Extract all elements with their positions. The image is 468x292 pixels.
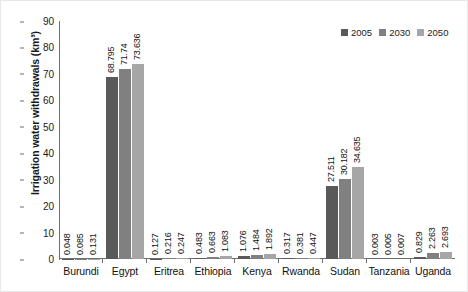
bar[interactable] — [295, 258, 307, 259]
bar-group: 27.51130.18234.635 — [323, 21, 367, 259]
legend-item-2030[interactable]: 2030 — [379, 27, 410, 38]
bar[interactable] — [251, 255, 263, 259]
bar-column[interactable]: 0.085 — [75, 21, 87, 259]
bar-column[interactable]: 1.076 — [238, 21, 250, 259]
bar-value-label: 0.085 — [75, 233, 85, 255]
y-axis-tick-label: 50 — [24, 121, 59, 132]
bar-column[interactable]: 0.663 — [207, 21, 219, 259]
bar-group: 0.0030.0050.007 — [367, 21, 411, 259]
y-axis-tick-mark — [20, 100, 24, 101]
bar[interactable] — [132, 64, 144, 259]
bar[interactable] — [163, 258, 175, 259]
bar-column[interactable]: 0.483 — [194, 21, 206, 259]
bar-column[interactable]: 30.182 — [339, 21, 351, 259]
bar-value-label: 0.483 — [194, 232, 204, 254]
x-axis-category-label-uganda: Uganda — [411, 265, 455, 277]
bar-group: 0.0480.0850.131 — [59, 21, 103, 259]
bar-column[interactable]: 1.083 — [220, 21, 232, 259]
y-axis-tick-mark — [20, 180, 24, 181]
bar[interactable] — [414, 257, 426, 259]
bar-column[interactable]: 0.003 — [370, 21, 382, 259]
bar-set: 0.1270.2160.247 — [147, 21, 191, 259]
bar[interactable] — [176, 258, 188, 259]
x-axis-category-label-sudan: Sudan — [323, 265, 367, 277]
category-separator-tick — [278, 259, 279, 263]
bar-column[interactable]: 34.635 — [352, 21, 364, 259]
bar-column[interactable]: 0.005 — [383, 21, 395, 259]
legend-item-2005[interactable]: 2005 — [341, 27, 372, 38]
y-axis-tick-label: 80 — [24, 42, 59, 53]
bar-column[interactable]: 0.007 — [396, 21, 408, 259]
bar-column[interactable]: 0.381 — [295, 21, 307, 259]
bar-column[interactable]: 0.131 — [88, 21, 100, 259]
bar[interactable] — [282, 258, 294, 259]
bar[interactable] — [220, 256, 232, 259]
legend-swatch-icon — [417, 29, 424, 36]
bar-value-label: 0.381 — [295, 232, 305, 254]
y-axis-tick-mark — [20, 74, 24, 75]
bar-value-label: 34.635 — [352, 137, 362, 163]
bar-column[interactable]: 0.317 — [282, 21, 294, 259]
bar-column[interactable]: 0.127 — [150, 21, 162, 259]
y-axis-tick-mark — [20, 21, 24, 22]
category-separator-tick — [102, 259, 103, 263]
y-axis-tick-label: 40 — [24, 148, 59, 159]
bar[interactable] — [308, 258, 320, 259]
bar-set: 0.8292.2632.693 — [411, 21, 455, 259]
bar-column[interactable]: 68.795 — [106, 21, 118, 259]
x-axis-category-labels: BurundiEgyptEritreaEthiopiaKenyaRwandaSu… — [59, 265, 455, 277]
legend-item-2050[interactable]: 2050 — [417, 27, 448, 38]
x-axis-category-label-burundi: Burundi — [59, 265, 103, 277]
bar-column[interactable]: 0.829 — [414, 21, 426, 259]
bar[interactable] — [326, 186, 338, 259]
bar[interactable] — [119, 69, 131, 259]
y-axis-title: Irrigation water withdrawals (km³) — [29, 0, 41, 233]
bar-column[interactable]: 1.892 — [264, 21, 276, 259]
bar-chart: Irrigation water withdrawals (km³) 01020… — [0, 0, 468, 292]
legend: 200520302050 — [341, 27, 448, 38]
y-axis-tick-label: 10 — [24, 227, 59, 238]
bar[interactable] — [339, 179, 351, 259]
bar-column[interactable]: 71.74 — [119, 21, 131, 259]
bar[interactable] — [352, 167, 364, 259]
y-axis-tick-label: 20 — [24, 201, 59, 212]
bar[interactable] — [427, 253, 439, 259]
bar-value-label: 0.048 — [62, 233, 72, 255]
bar-column[interactable]: 0.048 — [62, 21, 74, 259]
bar-column[interactable]: 2.693 — [440, 21, 452, 259]
bar-column[interactable]: 0.216 — [163, 21, 175, 259]
bar-value-label: 71.74 — [119, 44, 129, 66]
bar-column[interactable]: 2.263 — [427, 21, 439, 259]
bar[interactable] — [440, 252, 452, 259]
bar-value-label: 68.795 — [106, 47, 116, 73]
y-axis-tick-mark — [20, 47, 24, 48]
bar-column[interactable]: 0.447 — [308, 21, 320, 259]
plot-area: 0102030405060708090 0.0480.0850.13168.79… — [59, 21, 455, 259]
legend-label: 2005 — [351, 27, 372, 38]
bar-value-label: 30.182 — [339, 149, 349, 175]
bar[interactable] — [106, 77, 118, 259]
bar-value-label: 0.003 — [370, 233, 380, 255]
bar[interactable] — [194, 258, 206, 259]
bar-column[interactable]: 27.511 — [326, 21, 338, 259]
bar-value-label: 2.263 — [427, 227, 437, 249]
bar-set: 27.51130.18234.635 — [323, 21, 367, 259]
bar-column[interactable]: 73.636 — [132, 21, 144, 259]
y-axis-tick-mark — [20, 259, 24, 260]
y-axis-tick-mark — [20, 206, 24, 207]
bar-value-label: 0.829 — [414, 231, 424, 253]
bar-value-label: 0.007 — [396, 233, 406, 255]
bar-group: 0.8292.2632.693 — [411, 21, 455, 259]
bar-column[interactable]: 1.484 — [251, 21, 263, 259]
bar-column[interactable]: 0.247 — [176, 21, 188, 259]
bar-value-label: 2.693 — [440, 226, 450, 248]
bar[interactable] — [207, 257, 219, 259]
y-axis-tick-label: 70 — [24, 68, 59, 79]
bar[interactable] — [238, 256, 250, 259]
bar[interactable] — [264, 254, 276, 259]
y-axis-tick-mark — [20, 153, 24, 154]
y-axis-tick-label: 30 — [24, 174, 59, 185]
legend-swatch-icon — [341, 29, 348, 36]
bar-value-label: 0.216 — [163, 233, 173, 255]
y-axis-tick-mark — [20, 233, 24, 234]
